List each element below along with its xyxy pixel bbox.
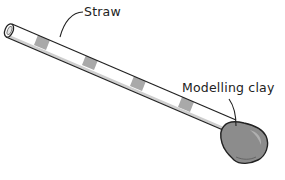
straw-label: Straw (84, 4, 121, 19)
straw (3, 22, 236, 133)
straw-clay-diagram: Straw Modelling clay (0, 0, 285, 180)
modelling-clay-label: Modelling clay (182, 80, 275, 95)
modelling-clay (221, 122, 268, 164)
straw-leader-line (60, 12, 83, 37)
